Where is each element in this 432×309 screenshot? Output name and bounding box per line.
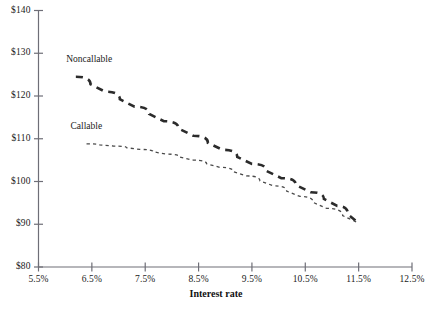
- x-axis-tick-label: 6.5%: [70, 274, 114, 284]
- data-series-group: [76, 77, 359, 223]
- x-axis-tick-label: 10.5%: [283, 274, 327, 284]
- axis-lines: [39, 11, 413, 268]
- x-axis-tick-label: 12.5%: [390, 274, 432, 284]
- x-axis-title: Interest rate: [0, 288, 432, 299]
- y-axis-tick-label: $140: [0, 5, 31, 15]
- y-axis-tick-label: $120: [0, 90, 31, 100]
- axis-tick-marks: [34, 11, 412, 272]
- series-label-noncallable: Noncallable: [66, 54, 112, 64]
- y-axis-tick-label: $90: [0, 218, 31, 228]
- x-axis-tick-label: 7.5%: [123, 274, 167, 284]
- series-line-callable: [87, 144, 359, 223]
- y-axis-tick-label: $100: [0, 176, 31, 186]
- series-line-noncallable: [76, 77, 359, 223]
- x-axis-tick-label: 8.5%: [177, 274, 221, 284]
- y-axis-tick-label: $130: [0, 47, 31, 57]
- chart-container: $80$90$100$110$120$130$140 5.5%6.5%7.5%8…: [0, 0, 432, 309]
- y-axis-tick-label: $110: [0, 133, 31, 143]
- series-label-callable: Callable: [71, 121, 103, 131]
- x-axis-tick-label: 9.5%: [230, 274, 274, 284]
- x-axis-tick-label: 11.5%: [337, 274, 381, 284]
- x-axis-tick-label: 5.5%: [17, 274, 61, 284]
- y-axis-tick-label: $80: [0, 261, 31, 271]
- chart-plot-area: [0, 0, 432, 309]
